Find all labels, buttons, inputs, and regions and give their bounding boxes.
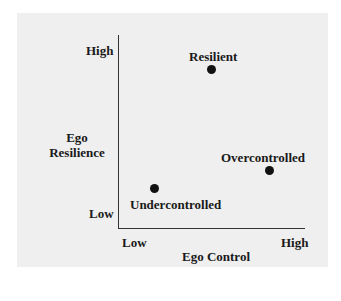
y-tick-high: High	[86, 44, 113, 57]
x-tick-high: High	[281, 236, 308, 249]
x-tick-low: Low	[122, 236, 147, 249]
y-tick-low: Low	[89, 207, 114, 220]
point-undercontrolled	[150, 184, 159, 193]
point-label-resilient: Resilient	[189, 50, 237, 63]
y-axis-line	[118, 35, 119, 229]
y-axis-label-line2: Resilience	[37, 146, 117, 159]
y-axis-label-line1: Ego	[52, 131, 102, 144]
point-label-undercontrolled: Undercontrolled	[130, 198, 221, 211]
x-axis-line	[118, 228, 305, 229]
x-axis-label: Ego Control	[182, 250, 250, 263]
point-resilient	[207, 65, 216, 74]
point-label-overcontrolled: Overcontrolled	[221, 151, 305, 164]
point-overcontrolled	[265, 166, 274, 175]
